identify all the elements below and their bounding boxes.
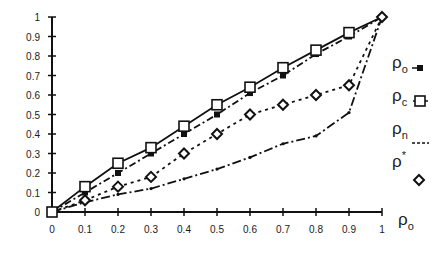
open-diamond-marker [146,172,156,182]
legend-label: ρn [392,119,408,141]
dot-marker [149,187,152,190]
open-square-marker [245,82,255,92]
open-square-marker [415,96,425,106]
x-tick-label: 0.9 [342,224,356,235]
open-diamond-marker [377,12,387,22]
x-axis-label-subscript: o [408,220,414,232]
filled-square-marker [115,170,121,176]
open-square-marker [344,28,354,38]
legend-subscript: c [402,96,408,108]
x-tick-label: 0.5 [210,224,224,235]
dot-marker [116,193,119,196]
x-tick-label: 0.4 [177,224,191,235]
open-square-marker [113,158,123,168]
y-tick-label: 0.2 [26,168,40,179]
series-o [52,17,382,212]
y-tick-label: 1 [34,12,40,23]
y-tick-label: 0.7 [26,71,40,82]
open-diamond-marker [344,80,354,90]
line-chart: 00.10.20.30.40.50.60.70.80.9100.10.20.30… [0,0,445,253]
legend-subscript: o [402,63,408,75]
open-diamond-marker [245,110,255,120]
x-axis-label: ρo [398,210,414,232]
filled-square-marker [417,65,423,71]
open-square-marker [47,207,57,217]
legend-item: ρn [392,119,429,143]
y-tick-label: 0.3 [26,149,40,160]
x-tick-label: 0.2 [111,224,125,235]
open-square-marker [311,45,321,55]
legend-label: ρc [392,86,408,108]
open-diamond-marker [414,175,424,185]
open-square-marker [146,143,156,153]
open-square-marker [278,63,288,73]
legend-subscript: n [402,129,408,141]
y-tick-label: 0.4 [26,129,40,140]
y-tick-label: 0 [34,207,40,218]
legend-item: ρc [392,86,428,108]
dot-marker [347,111,350,114]
y-tick-label: 0.9 [26,32,40,43]
y-tick-label: 0.1 [26,188,40,199]
legend-item: ρ* [392,149,424,185]
y-tick-label: 0.6 [26,90,40,101]
x-tick-label: 0.3 [144,224,158,235]
open-diamond-marker [311,90,321,100]
x-tick-label: 0.8 [309,224,323,235]
legend: ρoρcρnρ* [392,53,429,185]
x-tick-label: 0.6 [243,224,257,235]
legend-label: ρo [392,53,408,75]
legend-label: ρ* [392,149,407,171]
open-diamond-marker [113,182,123,192]
dot-marker [281,142,284,145]
open-square-marker [80,182,90,192]
dot-marker [182,177,185,180]
x-tick-label: 0 [49,224,55,235]
dot-marker [248,156,251,159]
open-diamond-marker [278,100,288,110]
filled-square-marker [214,112,220,118]
x-axis-label-text: ρo [398,210,414,232]
legend-superscript: * [402,149,407,161]
dot-marker [314,134,317,137]
dot-marker [215,168,218,171]
y-tick-label: 0.8 [26,51,40,62]
x-tick-label: 0.7 [276,224,290,235]
open-square-marker [179,121,189,131]
series-group [47,12,387,217]
x-tick-label: 0.1 [78,224,92,235]
legend-item: ρo [392,53,423,75]
x-tick-label: 1 [379,224,385,235]
open-diamond-marker [212,129,222,139]
y-tick-label: 0.5 [26,110,40,121]
open-square-marker [212,100,222,110]
